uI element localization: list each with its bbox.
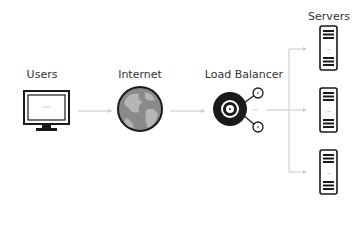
arrow-internet-lb [170, 109, 205, 113]
globe-icon [118, 87, 162, 131]
arrow-users-internet [78, 109, 112, 113]
server-icon-3: ··· [320, 150, 337, 194]
monitor-icon: ···· [24, 91, 69, 131]
svg-text:···: ··· [326, 46, 331, 52]
arrows-lb-servers [266, 47, 307, 174]
svg-text:···: ··· [326, 170, 331, 176]
svg-text:···: ··· [326, 108, 331, 114]
svg-text:···: ··· [252, 106, 258, 113]
server-icon-1: ··· [320, 26, 337, 70]
svg-text:····: ···· [43, 103, 51, 110]
load-balancer-icon: ··· [213, 88, 263, 132]
server-icon-2: ··· [320, 88, 337, 132]
